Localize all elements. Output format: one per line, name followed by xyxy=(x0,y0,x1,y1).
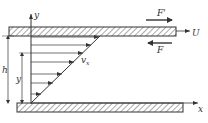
top-plate xyxy=(9,27,176,36)
force-bottom-label: F xyxy=(156,45,164,55)
force-top-label: F' xyxy=(156,8,166,18)
x-axis-label: x xyxy=(198,104,203,114)
y-axis-label: y xyxy=(33,10,40,20)
position-label: y xyxy=(15,74,22,84)
couette-flow-diagram: y x U F' F vx h y xyxy=(0,0,208,123)
velocity-profile-label: vx xyxy=(81,55,90,66)
gap-height-label: h xyxy=(2,65,8,75)
velocity-profile-line xyxy=(31,36,100,103)
bottom-plate xyxy=(17,103,183,112)
velocity-label: U xyxy=(192,28,200,38)
